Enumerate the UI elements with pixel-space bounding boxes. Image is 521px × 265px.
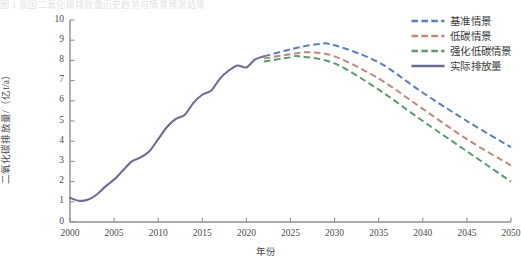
x-tick-label: 2050: [491, 228, 521, 238]
legend-item-label: 强化低碳情景: [450, 43, 512, 58]
y-tick-label: 2: [42, 175, 64, 185]
x-tick-label: 2005: [94, 228, 134, 238]
x-tick-label: 2040: [403, 228, 443, 238]
x-axis-label-text: 年份: [256, 247, 276, 257]
x-tick-label: 2045: [447, 228, 487, 238]
x-tick-label: 2000: [50, 228, 90, 238]
y-tick-label: 5: [42, 115, 64, 125]
legend-item-1[interactable]: 基准情景: [411, 13, 519, 28]
x-tick-label: 2020: [226, 228, 266, 238]
y-tick-label: 6: [42, 94, 64, 104]
y-tick-label: 3: [42, 155, 64, 165]
x-tick-label: 2025: [271, 228, 311, 238]
x-tick-label: 2015: [182, 228, 222, 238]
legend-item-label: 基准情景: [450, 13, 491, 28]
y-tick-label: 4: [42, 135, 64, 145]
legend-item-label: 实际排放量: [450, 58, 502, 73]
x-axis-label: 年份: [0, 244, 521, 258]
x-tick-label: 2010: [138, 228, 178, 238]
y-tick-label: 7: [42, 74, 64, 84]
chart-figure: 图 1 我国二氧化碳排放量历史趋势与情景预测结果 二氧化碳排放量/（亿t/a） …: [0, 0, 521, 265]
y-axis-label: 二氧化碳排放量/（亿t/a）: [0, 52, 12, 202]
x-tick-label: 2030: [315, 228, 355, 238]
legend-swatch-icon: [411, 31, 445, 41]
x-tick-label: 2035: [359, 228, 399, 238]
legend-swatch-icon: [411, 61, 445, 71]
series-line-4: [264, 56, 511, 182]
legend-item-4[interactable]: 实际排放量: [411, 58, 519, 73]
legend-item-2[interactable]: 低碳情景: [411, 28, 519, 43]
legend-item-label: 低碳情景: [450, 28, 491, 43]
legend-swatch-icon: [411, 46, 445, 56]
y-tick-label: 1: [42, 195, 64, 205]
y-tick-label: 9: [42, 34, 64, 44]
y-tick-label: 8: [42, 54, 64, 64]
legend-item-3[interactable]: 强化低碳情景: [411, 43, 519, 58]
legend-swatch-icon: [411, 16, 445, 26]
series-line-1: [70, 56, 264, 201]
y-tick-label: 0: [42, 216, 64, 226]
y-tick-label: 10: [42, 14, 64, 24]
chart-legend: 基准情景低碳情景强化低碳情景实际排放量: [411, 13, 519, 73]
